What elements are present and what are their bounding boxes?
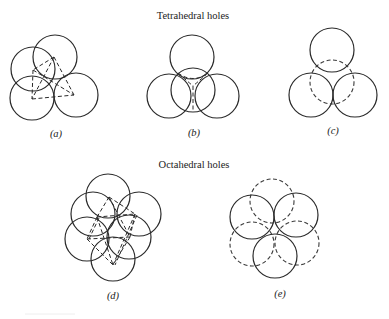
tetrahedral-title: Tetrahedral holes — [157, 10, 229, 21]
panel-e: (e) — [230, 179, 319, 300]
panel-label-b: (b) — [188, 127, 201, 139]
sphere-upper-layer-right — [274, 193, 318, 237]
panel-d: (d) — [65, 174, 161, 302]
sphere-upper-layer-left — [230, 195, 274, 239]
panel-b: (b) — [147, 35, 239, 139]
octahedral-title: Octahedral holes — [159, 159, 230, 170]
sphere-lower-layer-top — [250, 179, 294, 223]
panel-label-e: (e) — [274, 288, 286, 300]
sphere-bottom-right — [333, 73, 377, 117]
panel-label-a: (a) — [50, 128, 63, 140]
packing-holes-diagram: Tetrahedral holes (a) (b) — [0, 0, 389, 319]
sphere-lower-layer-left — [230, 222, 274, 266]
sphere-hidden — [310, 60, 354, 104]
sphere-bottom-right — [195, 74, 239, 118]
octahedron-edges — [87, 197, 137, 265]
sphere-bottom-left — [147, 74, 191, 118]
sphere-upper-layer-bottom — [253, 234, 297, 278]
panel-label-d: (d) — [107, 290, 120, 302]
panel-label-c: (c) — [327, 125, 339, 137]
sphere-back-right — [117, 192, 161, 236]
sphere-bottom-right — [54, 73, 98, 117]
sphere-top — [86, 174, 130, 218]
panel-a: (a) — [10, 35, 98, 140]
sphere-top — [170, 35, 214, 79]
sphere-bottom-left — [289, 73, 333, 117]
sphere-top — [310, 28, 354, 72]
panel-c: (c) — [289, 28, 377, 137]
